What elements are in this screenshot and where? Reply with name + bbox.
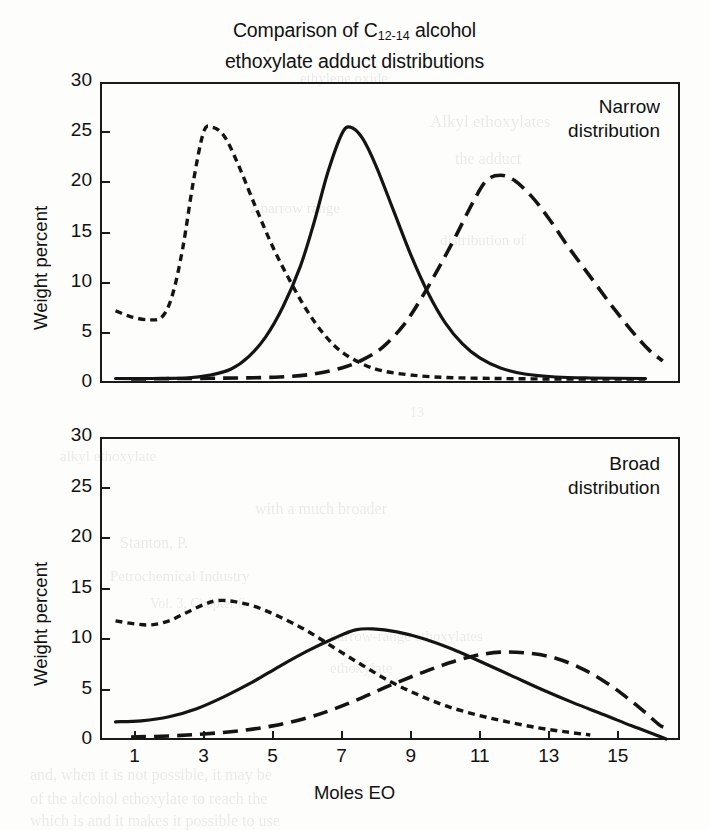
x-tick-mark [479, 731, 481, 740]
y-tick-label: 30 [52, 424, 92, 446]
curve-short-dash [116, 600, 591, 735]
y-tick-mark [100, 537, 110, 539]
x-tick-label: 13 [534, 745, 564, 767]
y-tick-label: 0 [52, 727, 92, 749]
y-tick-label: 25 [52, 475, 92, 497]
y-tick-mark [100, 638, 110, 640]
x-tick-mark [341, 731, 343, 740]
y-tick-label: 15 [52, 576, 92, 598]
x-tick-label: 7 [327, 745, 357, 767]
curve-solid [116, 629, 667, 739]
x-tick-label: 11 [465, 745, 495, 767]
x-tick-label: 9 [396, 745, 426, 767]
x-tick-mark [617, 731, 619, 740]
x-tick-mark [134, 731, 136, 740]
y-tick-label: 20 [52, 525, 92, 547]
y-tick-label: 10 [52, 626, 92, 648]
x-tick-label: 1 [120, 745, 150, 767]
x-axis-label: Moles EO [0, 782, 709, 804]
y-tick-label: 5 [52, 677, 92, 699]
y-tick-mark [100, 689, 110, 691]
x-tick-label: 5 [258, 745, 288, 767]
x-tick-mark [272, 731, 274, 740]
curve-long-dash [131, 652, 666, 737]
y-tick-mark [100, 588, 110, 590]
x-tick-label: 15 [603, 745, 633, 767]
x-tick-mark [203, 731, 205, 740]
y-tick-mark [100, 487, 110, 489]
x-tick-mark [548, 731, 550, 740]
x-tick-mark [410, 731, 412, 740]
x-tick-label: 3 [189, 745, 219, 767]
